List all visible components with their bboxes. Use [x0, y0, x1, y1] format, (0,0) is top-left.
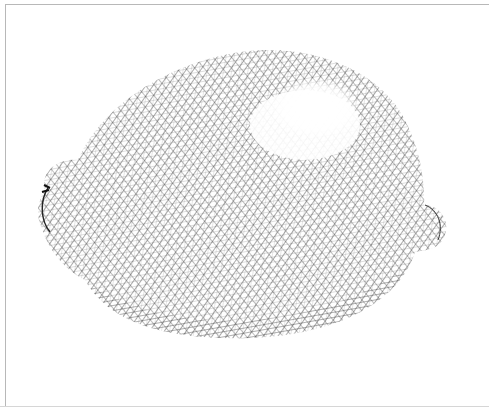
lemon-body	[0, 0, 489, 408]
lemon-drawing	[0, 0, 489, 408]
